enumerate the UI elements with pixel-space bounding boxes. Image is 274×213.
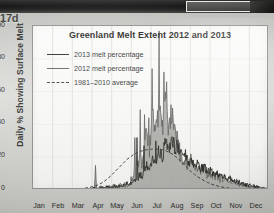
chart-legend: 2013 melt percentage 2012 melt percentag… (47, 48, 144, 90)
top-chrome-bar (0, 0, 274, 13)
x-tick-dec: Dec (243, 201, 269, 210)
top-chrome-corner (250, 1, 274, 13)
y-axis-label: Daily % Showing Surface Melt (15, 15, 25, 155)
y-tick-0: 0 (0, 184, 5, 191)
legend-item-2013: 2013 melt percentage (47, 48, 144, 60)
legend-line-icon-2012 (47, 68, 69, 69)
legend-line-icon-2013 (47, 54, 69, 55)
y-tick-100: 100 (0, 21, 5, 28)
y-tick-20: 20 (0, 151, 5, 158)
legend-dashed-line-icon-average (47, 82, 69, 83)
legend-label-average: 1981–2010 average (74, 78, 138, 87)
y-tick-60: 60 (0, 86, 5, 93)
plot-area-wrap: Greenland Melt Extent 2012 and 2013 2013… (32, 25, 268, 189)
legend-item-average: 1981–2010 average (47, 76, 144, 88)
y-tick-80: 80 (0, 53, 5, 60)
plot-area[interactable]: Greenland Melt Extent 2012 and 2013 2013… (32, 25, 268, 189)
y-tick-40: 40 (0, 118, 5, 125)
chart-figure: Daily % Showing Surface Melt 100 80 60 4… (0, 18, 274, 213)
legend-item-2012: 2012 melt percentage (47, 62, 144, 74)
legend-label-2013: 2013 melt percentage (74, 50, 144, 59)
legend-label-2012: 2012 melt percentage (74, 64, 144, 73)
chart-title: Greenland Melt Extent 2012 and 2013 (33, 30, 267, 40)
